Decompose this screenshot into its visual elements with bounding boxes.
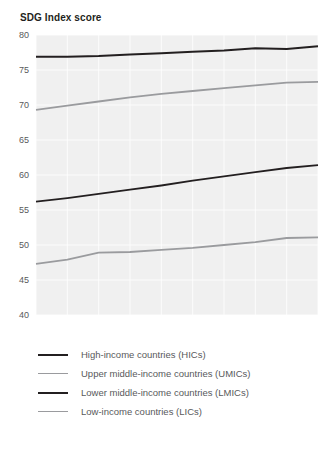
legend-item: High-income countries (HICs) (0, 345, 335, 364)
y-tick-label: 55 (19, 205, 29, 215)
y-tick-label: 60 (19, 170, 29, 180)
line-chart-svg: 4045505560657075802010201120122013201420… (0, 28, 335, 320)
legend-label: Low-income countries (LICs) (81, 407, 202, 417)
legend-swatch (38, 354, 68, 356)
y-tick-label: 50 (19, 240, 29, 250)
y-tick-label: 45 (19, 275, 29, 285)
y-tick-label: 70 (19, 100, 29, 110)
y-tick-label: 80 (19, 30, 29, 40)
legend-item: Upper middle-income countries (UMICs) (0, 364, 335, 383)
legend-item: Low-income countries (LICs) (0, 402, 335, 421)
legend-item: Lower middle-income countries (LMICs) (0, 383, 335, 402)
legend-swatch (38, 411, 68, 412)
legend-swatch (38, 373, 68, 374)
legend-swatch (38, 392, 68, 394)
chart-legend: High-income countries (HICs)Upper middle… (0, 345, 335, 421)
legend-label: Upper middle-income countries (UMICs) (81, 369, 250, 379)
chart-title: SDG Index score (20, 12, 102, 23)
y-tick-label: 75 (19, 65, 29, 75)
chart-figure: SDG Index score 404550556065707580201020… (0, 0, 335, 456)
plot-area: 4045505560657075802010201120122013201420… (0, 28, 335, 320)
y-tick-label: 40 (19, 310, 29, 320)
legend-label: Lower middle-income countries (LMICs) (81, 388, 249, 398)
y-tick-label: 65 (19, 135, 29, 145)
legend-label: High-income countries (HICs) (81, 350, 206, 360)
